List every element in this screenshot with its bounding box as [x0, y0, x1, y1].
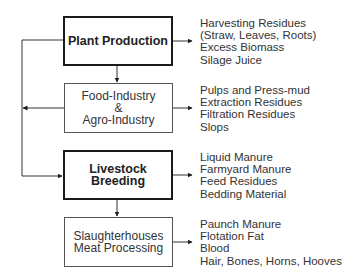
node-plant-production: Plant Production — [63, 16, 173, 66]
output-item: Liquid Manure — [200, 151, 291, 163]
output-item: Pulps and Press-mud — [200, 84, 310, 96]
output-item: Farmyard Manure — [200, 163, 291, 175]
livestock-outputs-list: Liquid Manure Farmyard Manure Feed Resid… — [200, 151, 291, 200]
output-item: Blood — [200, 242, 342, 254]
output-item: Harvesting Residues — [200, 17, 316, 29]
output-item: Filtration Residues — [200, 108, 310, 120]
output-item: Excess Biomass — [200, 41, 316, 53]
node-label: Slaughterhouses Meat Processing — [73, 230, 163, 254]
output-item: (Straw, Leaves, Roots) — [200, 29, 316, 41]
node-food-agro-industry: Food-Industry & Agro-Industry — [64, 83, 173, 133]
output-item: Hair, Bones, Horns, Hooves — [200, 255, 342, 267]
output-item: Paunch Manure — [200, 218, 342, 230]
output-item: Extraction Residues — [200, 96, 310, 108]
node-livestock-breeding: Livestock Breeding — [63, 150, 173, 200]
node-label: Food-Industry & Agro-Industry — [81, 90, 155, 126]
slaughter-outputs-list: Paunch Manure Flotation Fat Blood Hair, … — [200, 218, 342, 267]
food-outputs-list: Pulps and Press-mud Extraction Residues … — [200, 84, 310, 133]
output-item: Slops — [200, 121, 310, 133]
node-label: Plant Production — [68, 35, 168, 47]
node-slaughterhouses: Slaughterhouses Meat Processing — [64, 217, 173, 267]
plant-outputs-list: Harvesting Residues (Straw, Leaves, Root… — [200, 17, 316, 66]
output-item: Feed Residues — [200, 175, 291, 187]
output-item: Flotation Fat — [200, 230, 342, 242]
output-item: Bedding Material — [200, 188, 291, 200]
node-label: Livestock Breeding — [65, 163, 171, 187]
output-item: Silage Juice — [200, 54, 316, 66]
